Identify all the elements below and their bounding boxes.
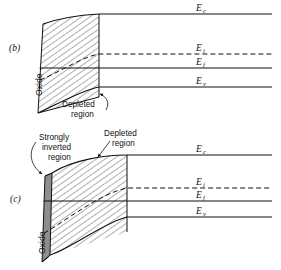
figure-root: (b) Oxide Depleted region E c E i E f E: [0, 0, 281, 270]
ec-subscript-b: c: [203, 7, 206, 14]
band-label-ec-b: E c: [195, 3, 206, 14]
oxide-label-b: Oxide: [34, 73, 44, 96]
band-label-ec-c: E c: [195, 144, 206, 155]
panel-label-c: (c): [10, 194, 21, 205]
ef-subscript-c: f: [203, 194, 206, 201]
depleted-region-leader-c: [98, 141, 110, 157]
ec-symbol-c: E: [195, 144, 202, 154]
depleted-region-label-line1-b: Depleted: [62, 100, 95, 109]
ei-symbol-b: E: [195, 43, 202, 53]
ef-symbol-c: E: [195, 190, 202, 200]
strongly-inverted-label-line2-c: inverted: [42, 143, 72, 152]
ev-symbol-b: E: [195, 76, 202, 86]
ec-subscript-c: c: [203, 148, 206, 155]
ev-symbol-c: E: [195, 206, 202, 216]
band-label-ef-b: E f: [195, 57, 206, 68]
band-label-ei-c: E i: [195, 177, 205, 188]
ef-subscript-b: f: [203, 61, 206, 68]
ev-subscript-b: v: [203, 80, 206, 87]
ei-symbol-c: E: [195, 177, 202, 187]
ei-subscript-b: i: [203, 47, 205, 54]
depleted-region-label-line2-c: region: [112, 139, 135, 148]
panel-b: (b) Oxide Depleted region E c E i E f E: [9, 3, 272, 119]
strongly-inverted-leader-c: [31, 142, 42, 174]
oxide-label-c: Oxide: [37, 231, 47, 254]
band-label-ef-c: E f: [195, 190, 206, 201]
strongly-inverted-label-line1-c: Strongly: [39, 133, 70, 142]
band-label-ev-c: E v: [195, 206, 206, 217]
strongly-inverted-label-line3-c: region: [48, 153, 71, 162]
depleted-region-leader-b: [100, 94, 108, 110]
ef-symbol-b: E: [195, 57, 202, 67]
band-label-ev-b: E v: [195, 76, 206, 87]
band-label-ei-b: E i: [195, 43, 205, 54]
panel-label-b: (b): [9, 43, 20, 54]
depleted-region-label-line2-b: region: [71, 110, 94, 119]
ev-subscript-c: v: [203, 210, 206, 217]
energy-band-diagram: (b) Oxide Depleted region E c E i E f E: [0, 0, 281, 270]
ec-symbol-b: E: [195, 3, 202, 13]
ei-subscript-c: i: [203, 181, 205, 188]
depleted-region-label-line1-c: Depleted: [104, 129, 137, 138]
panel-c: (c) Oxide Strongly inverted region Deple…: [10, 129, 272, 262]
